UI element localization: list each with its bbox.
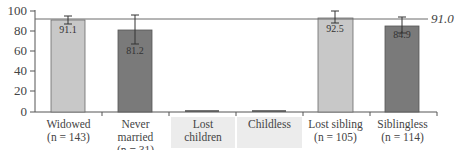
category-siblingless: Siblingless (n = 114) [371, 118, 434, 144]
category-widowed: Widowed (n = 143) [37, 118, 100, 144]
category-n: (n = 105) [304, 131, 367, 144]
y-tick-40: 40 [14, 63, 27, 78]
category-name: Childless [237, 118, 302, 131]
value-label-siblingless: 84.9 [393, 29, 411, 40]
category-name: Siblingless [371, 118, 434, 131]
category-name: Never married [104, 118, 167, 144]
category-name: Widowed [37, 118, 100, 131]
category-n: (n = 114) [371, 131, 434, 144]
category-childless: Childless [237, 117, 302, 148]
category-lost-children: Lost children [171, 117, 235, 148]
value-label-never-married: 81.2 [126, 45, 144, 56]
error-bars [64, 11, 406, 44]
value-label-lost-sibling: 92.5 [326, 23, 344, 34]
category-name-line2: children [171, 131, 235, 144]
category-n: (n = 143) [37, 131, 100, 144]
category-never-married: Never married (n = 31) [104, 118, 167, 150]
y-tick-labels: 100 80 60 40 20 0 [8, 3, 28, 119]
y-tick-60: 60 [14, 43, 27, 58]
category-name: Lost sibling [304, 118, 367, 131]
y-tick-20: 20 [14, 83, 27, 98]
value-label-widowed: 91.1 [59, 24, 77, 35]
category-name-line1: Lost [171, 118, 235, 131]
y-tick-0: 0 [21, 104, 28, 119]
x-ticks [102, 112, 437, 116]
reference-line-label: 91.0 [431, 11, 454, 26]
y-tick-100: 100 [8, 3, 28, 18]
y-tick-80: 80 [14, 23, 27, 38]
y-ticks [30, 11, 35, 112]
category-n: (n = 31) [104, 144, 167, 150]
category-lost-sibling: Lost sibling (n = 105) [304, 118, 367, 144]
